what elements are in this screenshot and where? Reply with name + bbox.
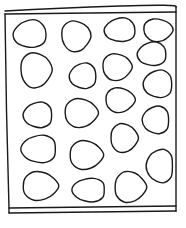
frame-bottom-inner bbox=[9, 206, 176, 208]
frame-top-outer bbox=[5, 5, 176, 11]
tray-sketch bbox=[0, 0, 186, 228]
frame-left bbox=[5, 14, 9, 213]
round-shape bbox=[23, 102, 52, 128]
round-shape bbox=[142, 106, 169, 134]
round-shape bbox=[115, 171, 147, 202]
round-shape bbox=[103, 54, 132, 81]
round-shape bbox=[69, 63, 96, 89]
round-shape bbox=[62, 21, 91, 52]
frame-bottom-outer bbox=[9, 211, 176, 213]
round-shapes-group bbox=[13, 18, 173, 203]
round-shape bbox=[21, 135, 56, 163]
round-shape bbox=[70, 141, 104, 170]
frame-top-inner bbox=[5, 12, 176, 14]
round-shape bbox=[104, 18, 135, 42]
round-shape bbox=[143, 70, 172, 98]
round-shape bbox=[21, 53, 52, 88]
round-shape bbox=[146, 149, 172, 183]
round-shape bbox=[106, 88, 135, 113]
round-shape bbox=[144, 19, 173, 42]
round-shape bbox=[111, 124, 139, 153]
round-shape bbox=[65, 99, 98, 128]
round-shape bbox=[72, 178, 104, 202]
round-shape bbox=[13, 20, 46, 48]
round-shape bbox=[23, 171, 59, 200]
round-shape bbox=[137, 42, 166, 66]
